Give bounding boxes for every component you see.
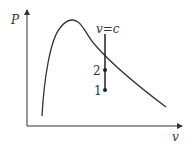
x-axis-label: v	[172, 130, 179, 144]
point-1-label: 1	[94, 84, 102, 98]
y-axis-label: P	[10, 13, 20, 27]
point-2	[103, 68, 107, 72]
line-label: v=c	[96, 22, 120, 36]
point-1	[103, 88, 107, 92]
pv-diagram: P v v=c 2 1	[0, 0, 196, 144]
point-2-label: 2	[93, 64, 101, 78]
